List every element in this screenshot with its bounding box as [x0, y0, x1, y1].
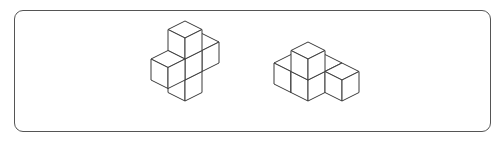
cube: [325, 63, 359, 101]
cross-shape: [151, 21, 219, 101]
cube: [151, 51, 185, 89]
cube-figures: [0, 0, 504, 145]
cube: [291, 42, 325, 80]
corner-shape: [274, 42, 359, 101]
